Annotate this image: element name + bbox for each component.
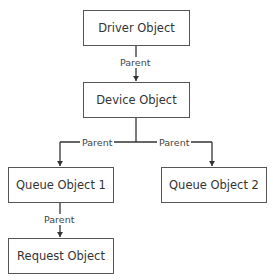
node-label: Driver Object	[98, 21, 175, 35]
node-request-object: Request Object	[8, 238, 114, 274]
node-driver-object: Driver Object	[83, 10, 190, 46]
node-label: Request Object	[17, 249, 105, 263]
node-device-object: Device Object	[83, 82, 190, 118]
edge-label-device-queue1: Parent	[80, 137, 114, 148]
node-queue-object-2: Queue Object 2	[161, 167, 267, 203]
node-label: Device Object	[96, 93, 176, 107]
edge-label-device-queue2: Parent	[157, 137, 191, 148]
edge-label-queue1-request: Parent	[42, 214, 76, 225]
node-queue-object-1: Queue Object 1	[8, 167, 114, 203]
node-label: Queue Object 2	[169, 178, 259, 192]
edge-label-driver-device: Parent	[118, 57, 152, 68]
node-label: Queue Object 1	[16, 178, 106, 192]
